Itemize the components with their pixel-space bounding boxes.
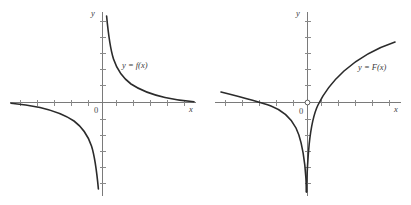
curve-label-F: y = F(x) [357,62,387,72]
origin-marker-right [305,100,310,105]
curve-f-positive-branch [107,16,194,102]
curve-label-f: y = f(x) [121,60,148,70]
curve-F-negative-branch [221,92,307,192]
y-axis-label-right: y [295,8,300,18]
x-axis-label-right: x [393,104,398,114]
curve-f-negative-branch [11,103,98,189]
y-axis-label-left: y [90,8,95,18]
plot-panel-right: y x 0 y = F(x) [205,0,411,205]
plot-panel-left: y x 0 y = f(x) [0,0,206,205]
x-axis-label-left: x [188,104,193,114]
origin-label-right: 0 [299,106,303,116]
origin-label-left: 0 [94,105,98,115]
figure-container: y x 0 y = f(x) [0,0,411,205]
